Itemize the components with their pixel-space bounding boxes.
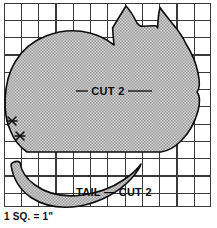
body-piece-label: CUT 2 [91, 85, 124, 97]
tail-outline [11, 161, 141, 207]
scale-caption: 1 SQ. = 1" [4, 211, 53, 222]
pattern-diagram: CUT 2 TAIL — CUT 2 [0, 0, 217, 228]
pattern-sheet: CUT 2 TAIL — CUT 2 1 SQ. = 1" [0, 0, 217, 228]
pattern-piece-tail: TAIL — CUT 2 [11, 161, 152, 207]
body-outline [5, 6, 199, 152]
pattern-piece-body: CUT 2 [5, 6, 199, 152]
tail-piece-label: TAIL — CUT 2 [76, 186, 152, 198]
